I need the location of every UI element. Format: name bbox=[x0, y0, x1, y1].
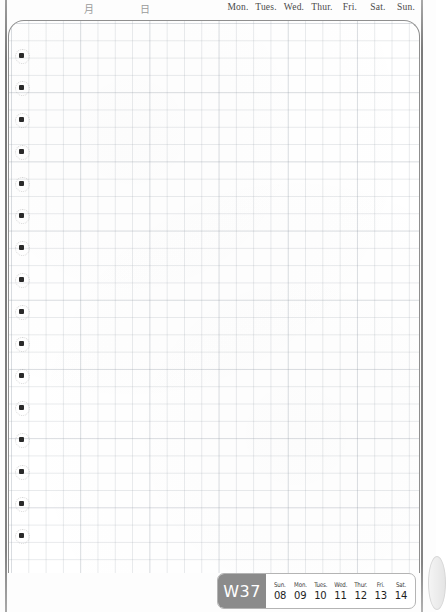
weekday-header-wed: Wed. bbox=[280, 2, 308, 12]
week-day-name: Sun. bbox=[274, 581, 286, 589]
week-day-date: 10 bbox=[314, 590, 326, 601]
week-day-name: Mon. bbox=[294, 581, 307, 589]
margin-bullet bbox=[19, 469, 24, 474]
margin-bullet bbox=[19, 341, 24, 346]
week-day-cell[interactable]: Mon.09 bbox=[290, 574, 310, 608]
weekday-header-sun: Sun. bbox=[392, 2, 420, 12]
week-day-name: Sat. bbox=[396, 581, 406, 589]
week-day-date: 14 bbox=[395, 590, 407, 601]
week-day-cell[interactable]: Wed.11 bbox=[330, 574, 350, 608]
week-day-cell[interactable]: Sun.08 bbox=[270, 574, 290, 608]
margin-bullet bbox=[19, 85, 24, 90]
margin-bullet bbox=[19, 53, 24, 58]
weekday-header-mon: Mon. bbox=[224, 2, 252, 12]
grid-lines-major bbox=[9, 21, 419, 573]
weekday-header-sat: Sat. bbox=[364, 2, 392, 12]
week-day-date: 12 bbox=[354, 590, 366, 601]
weekday-header-fri: Fri. bbox=[336, 2, 364, 12]
week-day-cell[interactable]: Fri.13 bbox=[371, 574, 391, 608]
week-day-name: Wed. bbox=[334, 581, 347, 589]
weekday-header-tues: Tues. bbox=[252, 2, 280, 12]
weekday-header-thur: Thur. bbox=[308, 2, 336, 12]
margin-bullet bbox=[19, 533, 24, 538]
binder-edge-left bbox=[5, 0, 7, 612]
week-day-name: Tues. bbox=[314, 581, 327, 589]
week-day-date: 13 bbox=[375, 590, 387, 601]
week-day-cell[interactable]: Tues.10 bbox=[310, 574, 330, 608]
margin-bullet bbox=[19, 277, 24, 282]
margin-bullet bbox=[19, 149, 24, 154]
week-number-label: W37 bbox=[218, 574, 266, 608]
day-label: 日 bbox=[140, 1, 151, 16]
margin-bullet bbox=[19, 501, 24, 506]
grid-sheet[interactable] bbox=[8, 20, 420, 573]
weekday-header-row: Mon. Tues. Wed. Thur. Fri. Sat. Sun. bbox=[224, 2, 420, 12]
week-day-name: Thur. bbox=[354, 581, 367, 589]
week-badge[interactable]: W37 Sun.08Mon.09Tues.10Wed.11Thur.12Fri.… bbox=[217, 573, 416, 609]
margin-bullet bbox=[19, 117, 24, 122]
margin-bullet bbox=[19, 245, 24, 250]
week-day-date: 11 bbox=[334, 590, 346, 601]
margin-bullet bbox=[19, 405, 24, 410]
week-day-date: 08 bbox=[274, 590, 286, 601]
week-day-cell[interactable]: Sat.14 bbox=[391, 574, 411, 608]
margin-bullet bbox=[19, 181, 24, 186]
week-day-list: Sun.08Mon.09Tues.10Wed.11Thur.12Fri.13Sa… bbox=[266, 574, 415, 608]
margin-bullet-column bbox=[0, 20, 48, 573]
binder-edge-right bbox=[421, 0, 423, 612]
week-day-cell[interactable]: Thur.12 bbox=[351, 574, 371, 608]
week-day-date: 09 bbox=[294, 590, 306, 601]
margin-bullet bbox=[19, 437, 24, 442]
margin-bullet bbox=[19, 373, 24, 378]
week-day-name: Fri. bbox=[377, 581, 385, 589]
margin-bullet bbox=[19, 213, 24, 218]
binder-ring-icon bbox=[428, 556, 446, 610]
page-header: 月 日 Mon. Tues. Wed. Thur. Fri. Sat. Sun. bbox=[0, 0, 436, 20]
month-label: 月 bbox=[84, 1, 95, 16]
margin-bullet bbox=[19, 309, 24, 314]
